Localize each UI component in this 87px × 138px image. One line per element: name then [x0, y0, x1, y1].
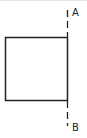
label-a: A	[72, 7, 79, 18]
label-b: B	[72, 122, 79, 133]
diagram-canvas: A B	[0, 0, 87, 138]
square-shape	[6, 38, 68, 101]
